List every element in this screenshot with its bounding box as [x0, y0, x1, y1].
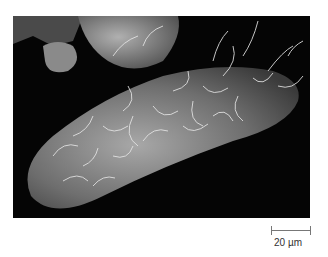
ciliate-cell-illustration [13, 16, 310, 218]
scale-bar-right-tick [310, 226, 311, 235]
sem-micrograph [13, 16, 310, 218]
scale-bar [271, 226, 311, 236]
scale-bar-line [271, 230, 311, 231]
scale-bar-label: 20 µm [274, 237, 302, 248]
